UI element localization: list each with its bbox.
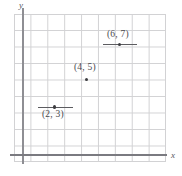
coordinate-grid-figure: y x (6, 7) (4, 5) (2, 3) (0, 0, 182, 176)
x-axis-line (10, 154, 167, 156)
x-axis-label: x (171, 151, 175, 160)
point-label: (6, 7) (107, 30, 129, 40)
y-axis-line (22, 8, 24, 164)
point-marker (118, 43, 121, 46)
point-label: (2, 3) (42, 110, 64, 120)
point-label: (4, 5) (74, 63, 96, 73)
y-axis-label: y (19, 1, 23, 10)
grid-background (14, 14, 166, 162)
